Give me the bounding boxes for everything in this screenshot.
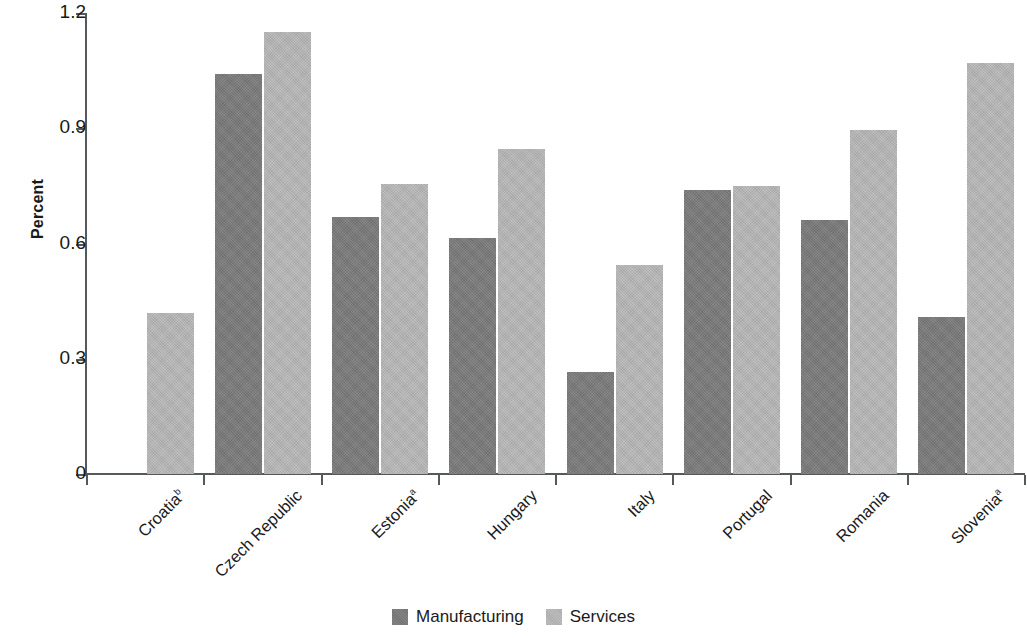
legend-swatch-manufacturing [392,609,408,625]
x-axis-label-italy: Italy [623,486,658,521]
bar-services-hungary [498,149,545,474]
x-axis-label-croatia: Croatiab [134,486,189,541]
legend-label-services: Services [570,607,635,627]
bar-manufacturing-romania [801,220,848,474]
x-axis-label-estonia: Estoniaa [368,486,424,542]
bar-chart-figure: Percent 00.30.60.91.2 CroatiabCzech Repu… [0,0,1027,638]
x-tick-mark [790,475,792,485]
bar-manufacturing-italy [567,372,614,474]
legend-label-manufacturing: Manufacturing [416,607,524,627]
x-axis-label-hungary: Hungary [484,486,542,544]
bar-manufacturing-portugal [684,190,731,474]
x-tick-mark [672,475,674,485]
x-tick-mark [321,475,323,485]
bar-services-czech-republic [264,32,311,474]
bar-manufacturing-hungary [449,238,496,474]
y-tick-label: 0 [24,462,86,484]
x-axis-label-footnote: b [171,486,183,498]
x-axis-label-slovenia: Sloveniaa [947,486,1009,548]
plot-area [87,13,1025,474]
x-tick-mark [438,475,440,485]
y-tick-label: 0.9 [24,116,86,138]
bar-manufacturing-czech-republic [215,74,262,474]
bar-services-romania [850,130,897,474]
bar-services-croatia [147,313,194,474]
x-axis-label-footnote: a [406,486,418,498]
legend-swatch-services [546,609,562,625]
x-axis-label-portugal: Portugal [719,486,776,543]
bar-services-estonia [381,184,428,474]
bar-services-italy [616,265,663,474]
bar-manufacturing-estonia [332,217,379,474]
y-tick-label: 0.6 [24,232,86,254]
chart-legend: ManufacturingServices [0,607,1027,627]
bar-services-portugal [733,186,780,474]
x-axis-label-czech-republic: Czech Republic [211,486,306,581]
x-tick-mark [907,475,909,485]
bar-manufacturing-slovenia [918,317,965,475]
x-tick-mark [555,475,557,485]
x-axis-label-footnote: a [992,486,1004,498]
bar-services-slovenia [967,63,1014,474]
x-tick-mark [86,475,88,485]
legend-item-manufacturing: Manufacturing [392,607,524,627]
y-tick-label: 1.2 [24,1,86,23]
x-axis-label-romania: Romania [832,486,892,546]
x-tick-mark [203,475,205,485]
x-tick-mark [1024,475,1026,485]
y-tick-label: 0.3 [24,347,86,369]
legend-item-services: Services [546,607,635,627]
